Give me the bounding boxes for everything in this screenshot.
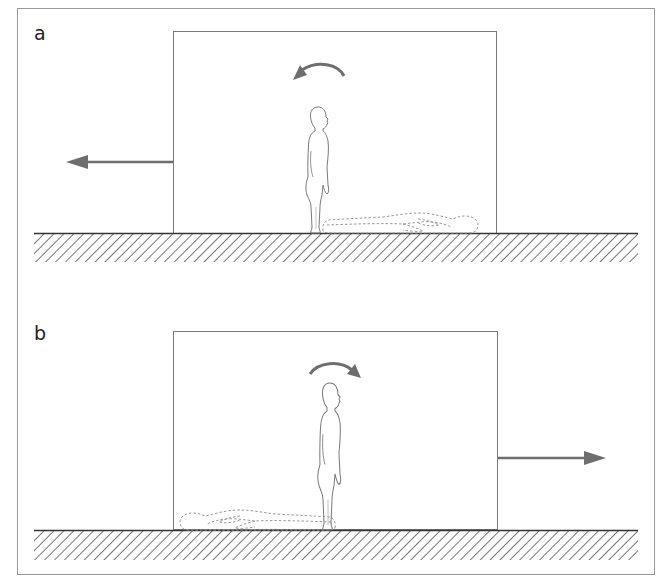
- ground-hatch-a: [34, 234, 638, 262]
- rotate-ccw-arrow-icon: [293, 64, 344, 80]
- moving-box-b: [174, 332, 498, 530]
- moving-box-a: [174, 32, 497, 234]
- ground-hatch-b: [34, 531, 638, 560]
- panel-a: [34, 32, 638, 263]
- rotate-cw-arrow-icon: [310, 364, 361, 378]
- arrow-right-icon: [498, 451, 606, 465]
- fallen-silhouette-b: [180, 510, 335, 530]
- panel-label-a: a: [34, 24, 46, 43]
- arrow-left-icon: [66, 155, 173, 169]
- standing-person-b: [318, 383, 341, 530]
- fallen-silhouette-a: [323, 213, 478, 233]
- panel-label-b: b: [34, 324, 46, 343]
- diagram-canvas: [0, 0, 661, 585]
- standing-person-a: [306, 107, 329, 233]
- panel-b: [34, 332, 638, 561]
- outer-frame: [18, 9, 655, 575]
